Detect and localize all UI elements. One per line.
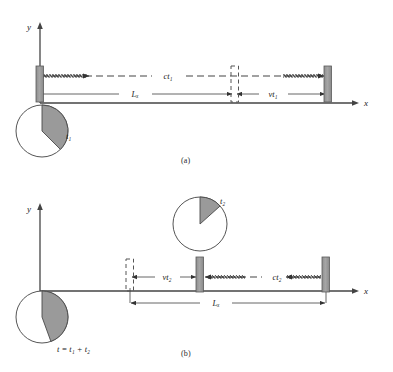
panel-b-upper-clock-label: t₂ [220, 196, 225, 206]
panel-b-y-axis [37, 203, 43, 291]
panel-b-y-axis-label: y [26, 204, 31, 214]
panel-a-displacement-label: vt₁ [268, 89, 277, 99]
panel-b-light-path-label: ct₂ [272, 272, 281, 282]
diagram-canvas: y x ct₁ [0, 0, 393, 372]
panel-a-y-axis-label: y [26, 22, 31, 32]
panel-b-beam-inbound-icon [286, 275, 321, 279]
panel-a-light-path-label: ct₁ [163, 71, 172, 81]
panel-a-clock [16, 105, 68, 157]
panel-b: y x vt₂ ct₂ [16, 196, 368, 354]
panel-a-length-label: Lₓ [130, 89, 139, 99]
panel-a-x-axis-label: x [363, 98, 368, 108]
panel-b-length-dimension [130, 288, 326, 303]
panel-a-left-mirror [36, 66, 44, 102]
panel-a: y x ct₁ [16, 22, 368, 157]
panel-a-clock-label: t₁ [66, 131, 71, 141]
panel-b-x-axis-label: x [363, 286, 368, 296]
panel-b-length-label: Lₓ [211, 298, 220, 308]
panel-a-ghost-mirror [231, 66, 239, 102]
panel-b-lower-clock [16, 291, 68, 343]
panel-b-lower-clock-label: t = t₁ + t₂ [57, 344, 90, 354]
panel-a-right-mirror [324, 66, 332, 102]
panel-b-beam-return-icon [205, 275, 245, 279]
panel-a-beam-outbound-icon [43, 74, 89, 78]
panel-b-right-mirror [322, 257, 330, 292]
panel-b-caption: (b) [181, 349, 191, 358]
panel-a-beam-return-icon [283, 74, 324, 78]
panel-b-displacement-label: vt₂ [162, 272, 171, 282]
panel-a-x-axis [40, 100, 359, 106]
panel-b-ghost-mirror [126, 259, 134, 291]
panel-b-upper-clock [173, 197, 227, 251]
panel-a-caption: (a) [181, 156, 190, 165]
physics-figure: y x ct₁ [0, 0, 393, 372]
panel-b-middle-mirror [196, 257, 204, 292]
